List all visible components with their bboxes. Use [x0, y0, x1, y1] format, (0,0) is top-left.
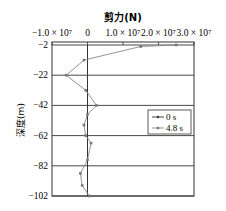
y-tick-label: −62: [33, 131, 48, 141]
data-point: [83, 124, 86, 127]
data-point: [95, 104, 98, 107]
x-tick-label: 0: [85, 28, 90, 38]
y-tick-label: −82: [33, 161, 48, 171]
x-tick-label: −1.0 × 10⁷: [32, 28, 72, 38]
legend: 0 s 4.8 s: [148, 110, 191, 134]
shear-force-depth-chart: 剪力(N) −1.0 × 10⁷01.0 × 10⁷2.0 × 10⁷3.0 ×…: [0, 0, 226, 211]
data-point: [139, 45, 142, 48]
y-tick-label: −42: [33, 100, 48, 110]
data-point: [90, 142, 93, 145]
y-tick-label: −102: [28, 191, 48, 201]
x-tick-label: 1.0 × 10⁷: [106, 28, 141, 38]
x-tick-label: 2.0 × 10⁷: [141, 28, 176, 38]
y-tick-labels: −2−22−42−62−82−102: [28, 40, 48, 201]
legend-4-8s: 4.8 s: [166, 123, 184, 133]
data-point: [65, 74, 68, 77]
data-point: [83, 59, 86, 62]
y-tick-label: −2: [38, 40, 48, 50]
y-tick-label: −22: [33, 70, 48, 80]
data-point: [88, 195, 91, 198]
data-point: [81, 184, 84, 187]
x-tick-label: 3.0 × 10⁷: [177, 28, 212, 38]
data-point: [84, 89, 87, 92]
chart-title: 剪力(N): [104, 11, 142, 23]
data-point: [175, 44, 178, 47]
data-point: [84, 134, 87, 137]
y-axis-label: 深度(m): [15, 103, 26, 137]
data-point: [86, 158, 89, 161]
data-point: [86, 113, 89, 116]
data-point: [79, 172, 82, 175]
legend-0s: 0 s: [166, 112, 177, 122]
